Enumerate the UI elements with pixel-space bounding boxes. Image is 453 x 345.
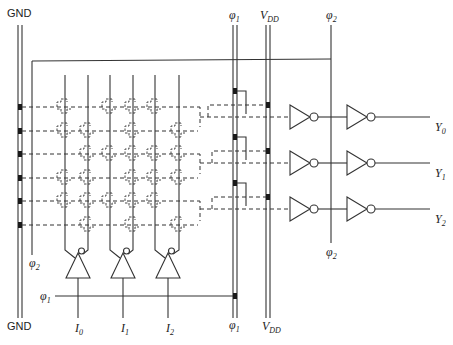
phi2-label-left: φ2 xyxy=(29,257,40,272)
output-inverter-1-icon xyxy=(290,197,310,221)
inversion-bubble-icon xyxy=(310,205,318,213)
transistor-icon xyxy=(147,170,161,184)
transistor-icon xyxy=(171,123,185,137)
output-inverter-1-icon xyxy=(290,105,310,129)
transistor-icon xyxy=(80,193,94,207)
phi1-gate-hook xyxy=(237,91,246,114)
vdd-contact xyxy=(266,194,270,200)
phi1-input-symbol: φ xyxy=(40,289,47,303)
vdd-contact xyxy=(266,102,270,108)
phi1-label-top: φ1 xyxy=(229,9,240,24)
transistor-icon xyxy=(125,217,139,231)
pla-circuit-diagram xyxy=(0,0,453,345)
phi1-contact xyxy=(233,134,237,140)
transistor-icon xyxy=(57,123,71,137)
input-label-i1: I1 xyxy=(121,322,129,337)
transistor-icon xyxy=(125,193,139,207)
transistor-icon xyxy=(80,170,94,184)
or-merge xyxy=(198,201,200,221)
transistor-icon xyxy=(147,146,161,160)
gnd-contact xyxy=(18,128,22,134)
transistor-icon xyxy=(125,123,139,137)
transistor-icon xyxy=(57,170,71,184)
input-buffer-icon xyxy=(156,253,180,278)
y1-symbol: Y xyxy=(435,166,442,180)
phi2-subscript: 2 xyxy=(333,15,337,24)
vdd-label-top: VDD xyxy=(260,9,279,24)
top-bus-line xyxy=(32,59,331,61)
vdd-subscript: DD xyxy=(267,15,279,24)
output-label-y1: Y1 xyxy=(435,167,446,182)
output-inverter-1-icon xyxy=(290,151,310,175)
phi1-label-bottom: φ1 xyxy=(229,319,240,334)
input-label-i0: I0 xyxy=(75,322,83,337)
phi1-contact xyxy=(233,88,237,94)
precharge-wire xyxy=(212,197,268,209)
inversion-bubble-icon xyxy=(310,113,318,121)
input-label-i2: I2 xyxy=(166,322,174,337)
output-inverter-2-icon xyxy=(347,105,367,129)
transistor-icon xyxy=(102,146,116,160)
phi1-bottom-subscript: 1 xyxy=(236,325,240,334)
vdd-contact xyxy=(266,148,270,154)
precharge-wire xyxy=(208,105,268,117)
precharge-wire xyxy=(212,151,268,163)
buffer-true-output xyxy=(155,240,165,258)
input-buffer-icon xyxy=(66,253,90,278)
y0-symbol: Y xyxy=(435,120,442,134)
inversion-bubble-icon xyxy=(79,248,85,254)
transistor-group xyxy=(57,99,185,231)
phi2-left-subscript: 2 xyxy=(36,263,40,272)
phi1-subscript: 1 xyxy=(236,15,240,24)
gnd-contact xyxy=(18,151,22,157)
gnd-label-top: GND xyxy=(7,8,31,19)
i0-subscript: 0 xyxy=(79,328,83,337)
gnd-contact xyxy=(18,222,22,228)
transistor-icon xyxy=(80,217,94,231)
buffer-true-output xyxy=(65,240,75,258)
or-merge xyxy=(198,154,200,174)
transistor-icon xyxy=(125,99,139,113)
or-plane-wiring xyxy=(198,105,290,221)
output-inverter-2-icon xyxy=(347,151,367,175)
phi1-symbol: φ xyxy=(229,8,236,22)
or-merge xyxy=(198,107,200,127)
phi2-label-top: φ2 xyxy=(326,9,337,24)
phi1-input-contact xyxy=(233,293,237,299)
inversion-bubble-icon xyxy=(367,159,375,167)
transistor-icon xyxy=(171,217,185,231)
inversion-bubble-icon xyxy=(367,113,375,121)
y2-subscript: 2 xyxy=(442,219,446,228)
input-buffer-icon xyxy=(111,253,135,278)
gnd-contact xyxy=(18,175,22,181)
transistor-icon xyxy=(102,193,116,207)
transistor-icon xyxy=(57,99,71,113)
y1-subscript: 1 xyxy=(442,173,446,182)
i1-subscript: 1 xyxy=(125,328,129,337)
phi2-symbol: φ xyxy=(326,8,333,22)
phi2-label-right-bottom: φ2 xyxy=(326,246,337,261)
phi1-gate-hook xyxy=(237,183,246,206)
transistor-icon xyxy=(102,99,116,113)
phi2-right-symbol: φ xyxy=(326,245,333,259)
transistor-icon xyxy=(125,146,139,160)
transistor-icon xyxy=(147,193,161,207)
inversion-bubble-icon xyxy=(367,205,375,213)
phi1-bottom-symbol: φ xyxy=(229,318,236,332)
phi1-gate-hook xyxy=(237,137,246,160)
transistor-icon xyxy=(80,146,94,160)
output-inverter-2-icon xyxy=(347,197,367,221)
buffer-true-output xyxy=(110,240,120,258)
phi2-right-subscript: 2 xyxy=(333,252,337,261)
i2-subscript: 2 xyxy=(170,328,174,337)
transistor-icon xyxy=(125,170,139,184)
transistor-icon xyxy=(171,170,185,184)
transistor-icon xyxy=(171,146,185,160)
inversion-bubble-icon xyxy=(310,159,318,167)
y0-subscript: 0 xyxy=(442,127,446,136)
gnd-contact xyxy=(18,198,22,204)
output-label-y0: Y0 xyxy=(435,121,446,136)
phi1-input-subscript: 1 xyxy=(47,296,51,305)
y2-symbol: Y xyxy=(435,212,442,226)
gnd-contact xyxy=(18,104,22,110)
